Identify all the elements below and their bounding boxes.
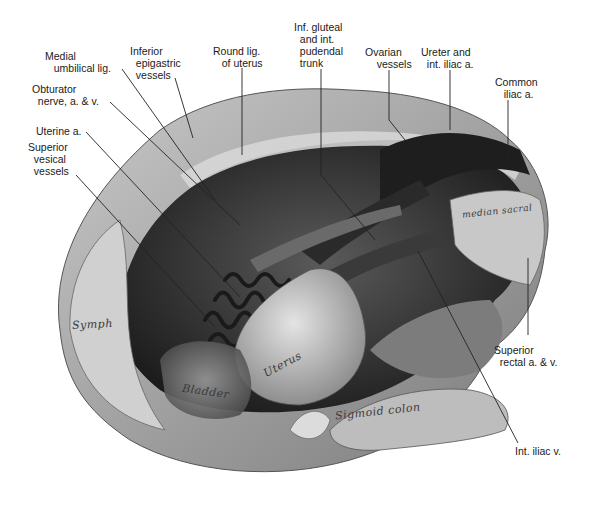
label-ovarian-vessels: Ovarian vessels [365, 46, 412, 70]
anatomical-figure: Medial umbilical lig. Inferior epigastri… [0, 0, 590, 507]
label-int-iliac-v: Int. iliac v. [515, 445, 561, 457]
label-medial-umbilical-lig: Medial umbilical lig. [45, 50, 111, 74]
label-uterine-a: Uterine a. [36, 125, 82, 137]
label-superior-rectal: Superior rectal a. & v. [494, 344, 557, 368]
label-ureter-int-iliac-a: Ureter and int. iliac a. [421, 46, 474, 70]
label-common-iliac-a: Common iliac a. [495, 76, 538, 100]
label-inferior-epigastric-vessels: Inferior epigastric vessels [130, 45, 181, 81]
label-superior-vesical-vessels: Superior vesical vessels [28, 141, 69, 177]
structure-label-symph: Symph [72, 317, 113, 332]
label-inf-gluteal-pudendal-trunk: Inf. gluteal and int. pudendal trunk [294, 21, 343, 69]
label-obturator-nerve: Obturator nerve, a. & v. [32, 83, 99, 107]
label-round-lig-of-uterus: Round lig. of uterus [213, 45, 263, 69]
